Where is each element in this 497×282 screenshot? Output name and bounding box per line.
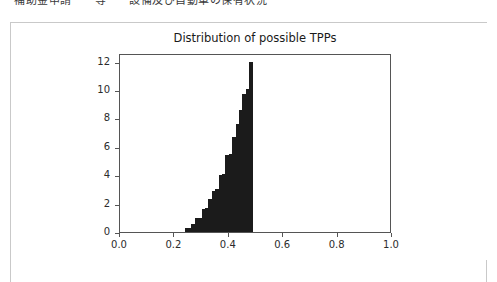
chart-title: Distribution of possible TPPs [119, 31, 391, 45]
y-axis-tick-mark [115, 63, 119, 64]
y-axis-tick-mark [115, 176, 119, 177]
y-axis-tick-mark [115, 119, 119, 120]
x-axis-tick-mark [282, 233, 283, 237]
x-axis-tick-mark [228, 233, 229, 237]
x-axis-tick-label: 0.8 [317, 239, 357, 250]
clipped-header-text: 補助金申請 等 設備及び自動車の保有状況 [14, 0, 267, 7]
y-axis-tick-label: 0 [77, 226, 110, 237]
y-axis-tick-label: 6 [77, 141, 110, 152]
x-axis-tick-mark [391, 233, 392, 237]
y-axis-tick-label: 4 [77, 169, 110, 180]
x-axis-tick-label: 0.0 [99, 239, 139, 250]
y-axis-tick-label: 12 [77, 56, 110, 67]
x-axis-tick-mark [337, 233, 338, 237]
plot-area [119, 54, 391, 233]
y-axis-tick-label: 10 [77, 84, 110, 95]
y-axis-tick-label: 2 [77, 198, 110, 209]
y-axis-tick-mark [115, 205, 119, 206]
x-axis-tick-label: 0.4 [208, 239, 248, 250]
x-axis-tick-label: 1.0 [371, 239, 411, 250]
output-cell-panel: Distribution of possible TPPs 0246810120… [10, 22, 487, 282]
y-axis-tick-mark [115, 91, 119, 92]
matplotlib-figure: Distribution of possible TPPs 0246810120… [11, 23, 488, 260]
x-axis-tick-mark [173, 233, 174, 237]
y-axis-tick-mark [115, 148, 119, 149]
histogram-bar [249, 62, 252, 232]
x-axis-tick-label: 0.2 [153, 239, 193, 250]
histogram-bars [120, 55, 390, 232]
x-axis-tick-mark [119, 233, 120, 237]
x-axis-tick-label: 0.6 [262, 239, 302, 250]
y-axis-tick-label: 8 [77, 112, 110, 123]
clipped-header-strip: 補助金申請 等 設備及び自動車の保有状況 [0, 0, 497, 13]
